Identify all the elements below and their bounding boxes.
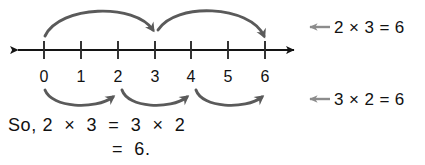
figure-canvas: 0 1 2 3 4 5 6 2 × 3 = 6 3 × 2 = 6 So, 2 … <box>0 0 425 165</box>
annotation-pointers <box>310 27 330 99</box>
annotation-three-times-two: 3 × 2 = 6 <box>334 91 405 108</box>
conclusion-line-2: = 6. <box>112 139 151 159</box>
upper-hop-0-to-3 <box>45 11 153 36</box>
tick-label-2: 2 <box>106 69 130 85</box>
lower-hop-0-to-2 <box>45 90 113 105</box>
tick-label-6: 6 <box>253 69 277 85</box>
conclusion-line-1: So, 2 × 3 = 3 × 2 <box>8 115 185 135</box>
lower-jump-arcs <box>45 90 262 105</box>
tick-label-1: 1 <box>69 69 93 85</box>
upper-jump-arcs <box>45 11 264 36</box>
tick-label-5: 5 <box>216 69 240 85</box>
upper-hop-3-to-6 <box>158 11 264 36</box>
tick-label-0: 0 <box>32 69 56 85</box>
tick-label-3: 3 <box>143 69 167 85</box>
lower-hop-4-to-6 <box>196 90 262 105</box>
lower-hop-2-to-4 <box>122 90 187 105</box>
annotation-two-times-three: 2 × 3 = 6 <box>334 19 405 36</box>
tick-label-4: 4 <box>179 69 203 85</box>
